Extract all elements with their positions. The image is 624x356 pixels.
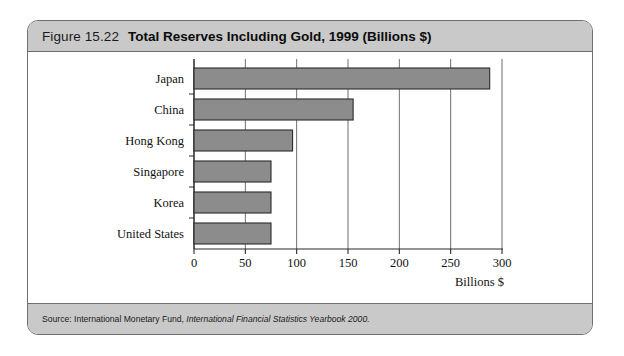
source-publication: International Financial Statistics Yearb… xyxy=(186,314,369,324)
chart-canvas: JapanChinaHong KongSingaporeKoreaUnited … xyxy=(28,53,592,304)
category-label: Singapore xyxy=(133,165,184,179)
figure-header: Figure 15.22 Total Reserves Including Go… xyxy=(28,21,592,52)
x-axis-tick-label: 200 xyxy=(390,256,409,270)
source-prefix: Source: International Monetary Fund, xyxy=(42,314,186,324)
x-axis-tick-label: 0 xyxy=(191,256,197,270)
x-axis-title: Billions $ xyxy=(455,275,504,289)
category-label: United States xyxy=(117,227,184,241)
x-axis-tick-label: 250 xyxy=(441,256,460,270)
figure-number: Figure 15.22 xyxy=(42,29,119,44)
bar xyxy=(194,130,293,151)
plot-body: JapanChinaHong KongSingaporeKoreaUnited … xyxy=(28,53,592,302)
bar xyxy=(194,99,353,120)
figure-frame: Figure 15.22 Total Reserves Including Go… xyxy=(27,20,593,335)
x-axis-tick-label: 150 xyxy=(339,256,358,270)
category-label: China xyxy=(154,103,184,117)
figure-footer: Source: International Monetary Fund, Int… xyxy=(28,303,592,334)
source-note: Source: International Monetary Fund, Int… xyxy=(42,314,370,324)
bar-chart: JapanChinaHong KongSingaporeKoreaUnited … xyxy=(28,53,592,302)
x-axis-tick-label: 50 xyxy=(239,256,252,270)
category-label: Japan xyxy=(156,72,185,86)
category-label: Korea xyxy=(153,196,184,210)
bar xyxy=(194,161,271,182)
bar xyxy=(194,68,490,89)
category-label: Hong Kong xyxy=(125,134,184,148)
x-axis-tick-label: 300 xyxy=(493,256,512,270)
bar xyxy=(194,223,271,244)
x-axis-tick-label: 100 xyxy=(287,256,306,270)
figure-title: Total Reserves Including Gold, 1999 (Bil… xyxy=(128,29,432,44)
bar xyxy=(194,192,271,213)
